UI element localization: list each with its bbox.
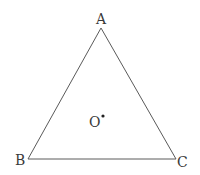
edge-ab: [28, 28, 101, 159]
point-o-dot: [101, 114, 104, 117]
vertex-label-a: A: [95, 11, 107, 27]
edge-ac: [101, 28, 176, 159]
triangle-diagram: A B C O: [0, 0, 200, 175]
vertex-label-c: C: [177, 154, 188, 170]
vertex-label-b: B: [15, 152, 25, 168]
point-label-o: O: [89, 114, 100, 130]
